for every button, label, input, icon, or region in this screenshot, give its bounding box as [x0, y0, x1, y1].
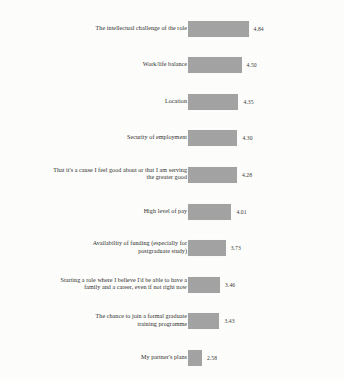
category-label: Starting a role where I believe I'd be a…	[7, 277, 187, 292]
category-label: Work/life balance	[7, 61, 187, 69]
bar-value-label: 4.28	[242, 172, 252, 178]
bar-track: 4.84	[188, 20, 264, 37]
bar	[188, 94, 238, 110]
bar-row: Work/life balance4.50	[0, 57, 344, 74]
category-label: Availability of funding (especially for …	[7, 241, 187, 256]
category-label: My partner's plans	[7, 354, 187, 362]
bar-row: Location4.35	[0, 93, 344, 110]
bar	[188, 240, 226, 256]
bar-row: The intellectual challenge of the role4.…	[0, 20, 344, 37]
bar	[188, 313, 219, 329]
bar-value-label: 4.84	[254, 26, 264, 32]
bar	[188, 167, 237, 183]
category-label: That it's a cause I feel good about or t…	[7, 167, 187, 182]
category-label: High level of pay	[7, 208, 187, 216]
bar-track: 4.01	[188, 203, 247, 220]
bar-track: 4.30	[188, 130, 253, 147]
bar-chart: The intellectual challenge of the role4.…	[0, 0, 344, 380]
category-label: The chance to join a formal graduate tra…	[7, 314, 187, 329]
bar-row: Starting a role where I believe I'd be a…	[0, 276, 344, 293]
bar-value-label: 3.46	[225, 282, 235, 288]
bar-track: 3.43	[188, 313, 235, 330]
plot-area: The intellectual challenge of the role4.…	[0, 0, 344, 380]
bar-value-label: 4.01	[236, 209, 246, 215]
bar	[188, 204, 231, 220]
bar-value-label: 4.30	[242, 135, 252, 141]
bar-track: 3.73	[188, 240, 241, 257]
bar	[188, 130, 237, 146]
category-label: Location	[7, 98, 187, 106]
bar-row: The chance to join a formal graduate tra…	[0, 313, 344, 330]
bar	[188, 57, 242, 73]
bar-row: That it's a cause I feel good about or t…	[0, 166, 344, 183]
bar-track: 2.58	[188, 349, 217, 366]
category-label: The intellectual challenge of the role	[7, 25, 187, 33]
category-label: Security of employment	[7, 135, 187, 143]
bar-row: Security of employment4.30	[0, 130, 344, 147]
bar-row: Availability of funding (especially for …	[0, 240, 344, 257]
bar-value-label: 4.35	[243, 99, 253, 105]
bar-row: High level of pay4.01	[0, 203, 344, 220]
bar-value-label: 2.58	[207, 355, 217, 361]
bar-track: 3.46	[188, 276, 235, 293]
bar	[188, 277, 220, 293]
bar-row: My partner's plans2.58	[0, 349, 344, 366]
bar-value-label: 4.50	[247, 62, 257, 68]
bar-track: 4.35	[188, 93, 254, 110]
bar-track: 4.50	[188, 57, 257, 74]
bar	[188, 350, 202, 366]
bar	[188, 21, 249, 37]
bar-value-label: 3.43	[224, 318, 234, 324]
bar-track: 4.28	[188, 166, 252, 183]
bar-value-label: 3.73	[231, 245, 241, 251]
